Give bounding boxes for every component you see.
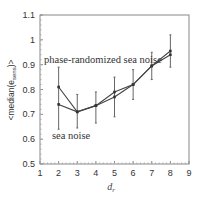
y-tick-label: 0.8 xyxy=(22,85,35,95)
annotation-sea-noise: sea noise xyxy=(52,130,91,141)
x-tick-label: 9 xyxy=(186,168,191,178)
x-tick-label: 4 xyxy=(93,168,98,178)
error-bars xyxy=(58,35,172,129)
annotation-phase-randomized: phase-randomized sea noise xyxy=(44,54,162,65)
y-axis-label: <median(esens)> xyxy=(6,60,17,121)
y-tick-label: 0.9 xyxy=(22,60,35,70)
y-tick-label: 1 xyxy=(30,35,35,45)
annotations: phase-randomized sea noisesea noise xyxy=(44,54,162,141)
y-tick-label: 1.1 xyxy=(22,10,35,20)
x-tick-label: 3 xyxy=(75,168,80,178)
x-tick-label: 2 xyxy=(56,168,61,178)
x-tick-label: 6 xyxy=(131,168,136,178)
line-chart: 0.50.60.70.80.911.1 123456789 phase-rand… xyxy=(0,0,201,197)
y-tick-label: 0.7 xyxy=(22,109,35,119)
x-tick-label: 7 xyxy=(149,168,154,178)
x-tick-label: 8 xyxy=(168,168,173,178)
y-tick-label: 0.5 xyxy=(22,159,35,169)
x-tick-label: 1 xyxy=(37,168,42,178)
y-tick-label: 0.6 xyxy=(22,134,35,144)
x-tick-label: 5 xyxy=(112,168,117,178)
x-axis-label: dr xyxy=(107,181,115,194)
